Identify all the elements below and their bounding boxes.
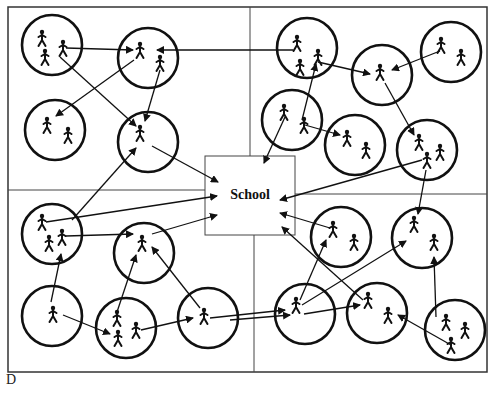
arrow-icon xyxy=(117,255,136,312)
person-icon xyxy=(377,64,384,80)
person-icon xyxy=(437,144,444,160)
household-circle xyxy=(352,45,412,105)
person-icon xyxy=(411,216,418,232)
person-icon xyxy=(443,314,450,330)
arrow-icon xyxy=(141,318,193,330)
person-icon xyxy=(462,322,469,338)
person-icon xyxy=(137,42,144,58)
person-icon xyxy=(59,229,66,245)
household-circle xyxy=(397,120,457,180)
person-icon xyxy=(385,307,392,323)
person-icon xyxy=(133,322,140,338)
household-circle xyxy=(425,300,485,360)
household-circle xyxy=(114,223,174,283)
household-circle xyxy=(392,208,452,268)
person-icon xyxy=(201,308,208,324)
person-icon xyxy=(431,234,438,250)
person-icon xyxy=(114,310,121,326)
person-icon xyxy=(424,152,431,168)
person-icon xyxy=(363,142,370,158)
person-icon xyxy=(438,37,445,53)
household-circle xyxy=(347,283,407,343)
arrow-icon xyxy=(304,305,360,314)
person-icon xyxy=(39,30,46,46)
arrow-icon xyxy=(56,60,134,116)
person-icon xyxy=(115,330,122,346)
person-icon xyxy=(157,55,164,71)
person-icon xyxy=(39,214,46,230)
person-icon xyxy=(458,49,465,65)
person-icon xyxy=(294,35,301,51)
household-circle xyxy=(178,288,238,348)
arrow-icon xyxy=(392,51,440,70)
person-icon xyxy=(365,292,372,308)
person-icon xyxy=(44,117,51,133)
arrow-icon xyxy=(46,196,217,222)
household-circle xyxy=(421,22,481,82)
household-circle xyxy=(325,115,385,175)
person-icon xyxy=(139,235,146,251)
person-icon xyxy=(42,49,49,65)
person-icon xyxy=(293,297,300,313)
arrow-icon xyxy=(66,48,133,50)
arrow-icon xyxy=(63,315,110,334)
person-icon xyxy=(46,235,53,251)
person-icon xyxy=(65,127,72,143)
contact-network-diagram: School xyxy=(0,0,498,396)
household-circle xyxy=(262,90,322,150)
panel-label: D xyxy=(6,372,16,388)
arrow-icon xyxy=(66,234,133,236)
person-icon xyxy=(351,234,358,250)
person-icon xyxy=(297,59,304,75)
household-circle xyxy=(22,15,82,75)
household-circle xyxy=(22,204,82,264)
household-circle xyxy=(118,28,178,88)
person-icon xyxy=(330,221,337,237)
household-circle xyxy=(118,112,178,172)
arrow-icon xyxy=(51,254,61,302)
person-icon xyxy=(281,104,288,120)
household-circle xyxy=(25,100,85,160)
person-icon xyxy=(416,134,423,150)
arrow-icon xyxy=(385,83,414,135)
person-icon xyxy=(137,125,144,141)
household-circle xyxy=(311,207,371,267)
school-label: School xyxy=(230,187,270,202)
person-icon xyxy=(344,130,351,146)
person-icon xyxy=(60,40,67,56)
person-icon xyxy=(50,306,57,322)
household-circle xyxy=(277,18,337,78)
